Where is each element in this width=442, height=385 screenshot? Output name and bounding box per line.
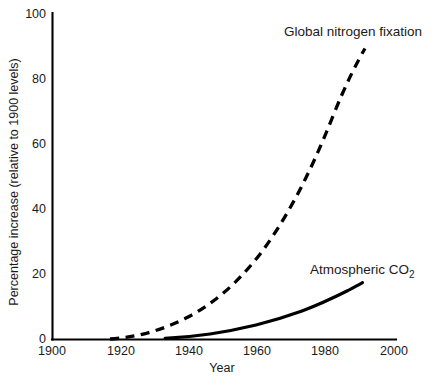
y-tick-label-100: 100: [16, 8, 46, 21]
series-annotation-global-nitrogen-fixation: Global nitrogen fixation: [284, 25, 422, 39]
y-axis-title: Percentage increase (relative to 1900 le…: [8, 58, 21, 305]
chart-figure: 100 80 60 40 20 0 1900 1920 1940 1960 19…: [0, 0, 442, 385]
x-tick-label-2000: 2000: [380, 345, 408, 358]
x-tick-label-1900: 1900: [38, 345, 66, 358]
x-tick-label-1920: 1920: [107, 345, 135, 358]
chart-plot-area: [0, 0, 442, 385]
series-line-atmospheric-co2: [165, 283, 363, 339]
x-axis-title: Year: [209, 362, 234, 375]
series-annotation-atmospheric-co2: Atmospheric CO2: [310, 263, 415, 280]
co2-annotation-text: Atmospheric CO: [310, 262, 409, 277]
series-line-global-nitrogen-fixation: [110, 49, 365, 340]
x-tick-label-1940: 1940: [175, 345, 203, 358]
x-tick-label-1960: 1960: [243, 345, 271, 358]
x-tick-label-1980: 1980: [311, 345, 339, 358]
co2-annotation-subscript: 2: [409, 269, 415, 280]
